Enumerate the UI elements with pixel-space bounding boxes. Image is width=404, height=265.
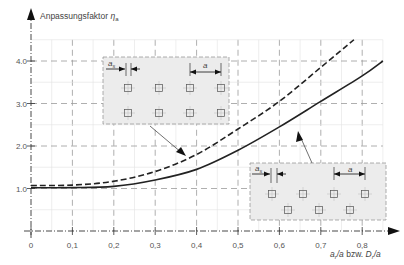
inset-aligned-grid: as a — [103, 57, 229, 124]
x-tick-label: 0,1 — [67, 241, 79, 250]
y-tick-label: 1.0 — [16, 185, 28, 194]
x-tick-label: 0,4 — [191, 241, 203, 250]
x-tick-label: 0,3 — [150, 241, 162, 250]
annotation-arrow-solid — [296, 131, 312, 163]
x-tick-label: 0,5 — [232, 241, 244, 250]
y-tick-label: 2.0 — [16, 142, 28, 151]
y-tick-label: 3.0 — [16, 100, 28, 109]
x-tick-label: 0 — [29, 241, 34, 250]
y-axis-arrow-icon — [27, 8, 35, 20]
x-tick-label: 0,7 — [315, 241, 327, 250]
x-tick-label: 0,6 — [274, 241, 286, 250]
x-axis-arrow-icon — [388, 227, 400, 235]
svg-text:a: a — [203, 61, 208, 70]
y-axis-title: Anpassungsfaktor ηa — [40, 11, 119, 22]
chart: 00,10,20,30,40,50,60,70,81.02.03.04.0 An… — [0, 0, 404, 265]
svg-text:a: a — [348, 165, 353, 174]
inset-staggered-grid: as a — [250, 163, 386, 220]
y-tick-label: 4.0 — [16, 57, 28, 66]
x-tick-label: 0,2 — [108, 241, 120, 250]
x-axis-title: ar/a bzw. Dr/a — [330, 249, 381, 260]
